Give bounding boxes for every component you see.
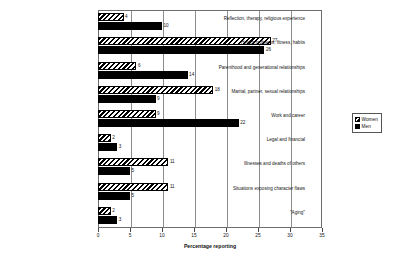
legend-label-women: Women xyxy=(362,117,378,123)
chart-legend: Women Men xyxy=(352,113,382,133)
bar-women xyxy=(98,183,168,191)
bar-value-label: 3 xyxy=(119,144,122,150)
bar-men xyxy=(98,192,130,200)
legend-label-men: Men xyxy=(362,124,371,130)
bar-men xyxy=(98,95,156,103)
bar-women xyxy=(98,134,111,142)
x-tick-label: 35 xyxy=(312,233,332,239)
x-tick-label: 5 xyxy=(120,233,140,239)
category-label: Situations exposing character flaws xyxy=(211,186,305,192)
x-tick-label: 25 xyxy=(248,233,268,239)
bar-value-label: 5 xyxy=(132,193,135,199)
bar-men xyxy=(98,167,130,175)
bar-men xyxy=(98,46,264,54)
bar-women xyxy=(98,13,124,21)
bar-women xyxy=(98,158,168,166)
bar-men xyxy=(98,119,239,127)
bar-value-label: 11 xyxy=(170,184,175,190)
bar-value-label: 9 xyxy=(157,96,160,102)
horizontal-bar-chart: 41027266141899222311511523 Reflection, t… xyxy=(0,0,405,264)
category-label: Marital, partner, sexual relationships xyxy=(211,89,305,95)
x-axis-title: Percentage reporting xyxy=(98,243,322,249)
x-tick-label: 0 xyxy=(88,233,108,239)
x-tick xyxy=(226,228,227,232)
bar-men xyxy=(98,22,162,30)
x-tick xyxy=(322,228,323,232)
legend-item-women: Women xyxy=(355,116,378,123)
bar-value-label: 6 xyxy=(138,63,141,69)
bar-value-label: 26 xyxy=(266,47,271,53)
bar-value-label: 4 xyxy=(125,14,128,20)
bar-value-label: 11 xyxy=(170,159,175,165)
bar-value-label: 14 xyxy=(189,72,194,78)
bar-men xyxy=(98,143,117,151)
x-tick xyxy=(194,228,195,232)
category-label: Legal and financial xyxy=(211,137,305,143)
bar-value-label: 2 xyxy=(112,208,115,214)
bar-value-label: 9 xyxy=(157,111,160,117)
category-label: Parenthood and generational relationship… xyxy=(211,65,305,71)
x-tick-label: 30 xyxy=(280,233,300,239)
category-label: "Aging" xyxy=(211,210,305,216)
bar-men xyxy=(98,71,188,79)
bar-value-label: 2 xyxy=(112,135,115,141)
category-label: Reflection, therapy, religious experienc… xyxy=(211,16,305,22)
bar-value-label: 5 xyxy=(132,168,135,174)
x-tick xyxy=(258,228,259,232)
bar-women xyxy=(98,62,136,70)
hatched-swatch-icon xyxy=(355,117,360,122)
legend-item-men: Men xyxy=(355,123,378,130)
bar-women xyxy=(98,207,111,215)
bar-value-label: 3 xyxy=(119,217,122,223)
bar-women xyxy=(98,110,156,118)
bar-value-label: 22 xyxy=(240,120,245,126)
bar-women xyxy=(98,86,213,94)
bar-men xyxy=(98,216,117,224)
x-tick-label: 20 xyxy=(216,233,236,239)
x-tick xyxy=(162,228,163,232)
x-tick-label: 10 xyxy=(152,233,172,239)
category-label: Health problems, fitness, habits xyxy=(211,40,305,46)
x-tick xyxy=(98,228,99,232)
x-tick xyxy=(130,228,131,232)
bar-value-label: 10 xyxy=(164,23,169,29)
x-tick xyxy=(290,228,291,232)
category-label: Illnesses and deaths of others xyxy=(211,161,305,167)
x-tick-label: 15 xyxy=(184,233,204,239)
category-label: Work and career xyxy=(211,113,305,119)
solid-swatch-icon xyxy=(355,124,360,129)
